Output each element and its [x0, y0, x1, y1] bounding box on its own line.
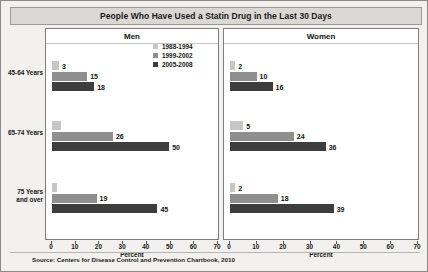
bar: [52, 194, 97, 203]
legend-item-label: 1988-1994: [162, 43, 193, 50]
bar-value-label: 26: [113, 133, 124, 140]
bar-value-label: 3: [59, 62, 66, 69]
bar: [52, 142, 169, 151]
axis-tick-label: 60: [387, 243, 394, 250]
bar: [230, 204, 334, 213]
bar-value-label: 18: [278, 195, 289, 202]
bar-row: [52, 121, 218, 130]
bar-row: 2: [230, 61, 418, 70]
source-note-bar: Source: Centers for Disease Control and …: [10, 252, 420, 266]
plot-area-women: 210165243621839: [224, 43, 418, 239]
legend-item-label: 2005-2008: [162, 61, 193, 68]
legend-item: 1999-2002: [153, 51, 215, 60]
panel-header-women: Women: [224, 29, 418, 44]
axis-tick-label: 60: [190, 243, 197, 250]
axis-tick-label: 0: [49, 243, 53, 250]
category-label-line: 45-64 Years: [1, 69, 43, 77]
bar: [230, 72, 257, 81]
bar: [230, 132, 294, 141]
axis-tick-label: 40: [333, 243, 340, 250]
bar-row: [52, 183, 218, 192]
bar-row: 45: [52, 204, 218, 213]
source-note: Source: Centers for Disease Control and …: [10, 256, 235, 263]
legend-item-label: 1999-2002: [162, 52, 193, 59]
bar: [230, 194, 278, 203]
bar-value-label: 16: [273, 83, 284, 90]
bar-value-label: 36: [326, 143, 337, 150]
axis-tick-label: 50: [166, 243, 173, 250]
bar-value-label: 2: [235, 62, 242, 69]
axis-tick-label: 70: [413, 243, 420, 250]
axis-tick-label: 70: [213, 243, 220, 250]
bar: [52, 61, 59, 70]
bar-row: 18: [230, 194, 418, 203]
panel-women: Women 210165243621839: [223, 28, 419, 240]
bar-value-label: 50: [169, 143, 180, 150]
bar-value-label: 10: [257, 73, 268, 80]
category-label: 65-74 Years: [1, 129, 43, 137]
bar-value-label: 24: [294, 133, 305, 140]
category-axis-labels: 45-64 Years65-74 Years75 Yearsand over: [1, 28, 43, 240]
bar-value-label: 2: [235, 184, 242, 191]
legend-swatch-icon: [153, 53, 158, 58]
bar: [230, 82, 273, 91]
category-label-line: 75 Years: [1, 188, 43, 196]
bar-value-label: 19: [97, 195, 108, 202]
bar-row: 5: [230, 121, 418, 130]
bar: [52, 132, 113, 141]
chart-figure: People Who Have Used a Statin Drug in th…: [0, 0, 428, 272]
bar-value-label: 18: [94, 83, 105, 90]
axis-tick-label: 40: [142, 243, 149, 250]
bar-row: 50: [52, 142, 218, 151]
bar-value-label: 5: [243, 122, 250, 129]
bar-value-label: 39: [334, 205, 345, 212]
bar-row: 19: [52, 194, 218, 203]
axis-tick-label: 20: [95, 243, 102, 250]
bar: [52, 121, 61, 130]
category-label-line: and over: [1, 196, 43, 204]
bar: [230, 142, 326, 151]
axis-tick-label: 50: [360, 243, 367, 250]
bar: [52, 204, 157, 213]
bar-row: 18: [52, 82, 218, 91]
bar-value-label: 15: [87, 73, 98, 80]
bar-row: 2: [230, 183, 418, 192]
legend-swatch-icon: [153, 62, 158, 67]
category-label: 75 Yearsand over: [1, 188, 43, 203]
bar-row: 24: [230, 132, 418, 141]
page-title: People Who Have Used a Statin Drug in th…: [100, 11, 332, 21]
panel-title-men: Men: [124, 32, 140, 41]
panel-title-women: Women: [307, 32, 336, 41]
legend-item: 1988-1994: [153, 42, 215, 51]
bar-value-label: 45: [157, 205, 168, 212]
legend-swatch-icon: [153, 44, 158, 49]
bar: [52, 183, 57, 192]
bar-row: 10: [230, 72, 418, 81]
chart-title-bar: People Who Have Used a Statin Drug in th…: [10, 7, 422, 25]
axis-tick-label: 0: [227, 243, 231, 250]
plot-area-men: 3151826501945: [46, 43, 218, 239]
bar-row: 15: [52, 72, 218, 81]
category-label-line: 65-74 Years: [1, 129, 43, 137]
bar: [230, 121, 243, 130]
legend-item: 2005-2008: [153, 60, 215, 69]
bar-row: 16: [230, 82, 418, 91]
axis-tick-label: 10: [71, 243, 78, 250]
axis-tick-label: 10: [252, 243, 259, 250]
axis-tick-label: 30: [119, 243, 126, 250]
chart-legend: 1988-19941999-20022005-2008: [153, 42, 215, 70]
bar-row: 39: [230, 204, 418, 213]
axis-tick-label: 20: [279, 243, 286, 250]
bar: [52, 82, 94, 91]
bar-row: 26: [52, 132, 218, 141]
bar: [52, 72, 87, 81]
bar-row: 36: [230, 142, 418, 151]
axis-tick-label: 30: [306, 243, 313, 250]
category-label: 45-64 Years: [1, 69, 43, 77]
